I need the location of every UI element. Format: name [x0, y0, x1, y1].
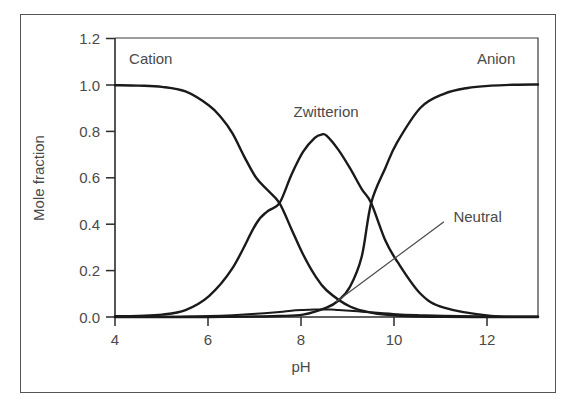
y-tick-label: 0.4	[79, 216, 100, 233]
y-tick-label: 1.0	[79, 77, 100, 94]
curve-label-anion: Anion	[477, 50, 515, 67]
x-axis-title: pH	[291, 358, 310, 375]
y-tick-label: 1.2	[79, 30, 100, 47]
curve-label-neutral: Neutral	[453, 208, 501, 225]
plot-frame	[115, 38, 538, 317]
neutral-leader-line	[336, 222, 444, 302]
chart-canvas: 1.2 1.0 0.8 0.6 0.4 0.2 0.0 4 6 8 10 12 …	[0, 0, 570, 409]
x-tick-label: 10	[386, 331, 403, 348]
y-tick-label: 0.6	[79, 169, 100, 186]
x-tick-label: 6	[204, 331, 212, 348]
figure-container: 1.2 1.0 0.8 0.6 0.4 0.2 0.0 4 6 8 10 12 …	[0, 0, 570, 409]
x-axis-ticks	[115, 317, 487, 326]
y-tick-label: 0.8	[79, 123, 100, 140]
y-tick-label: 0.2	[79, 262, 100, 279]
x-tick-label: 12	[479, 331, 496, 348]
x-tick-labels: 4 6 8 10 12	[111, 331, 496, 348]
curve-label-zwitterion: Zwitterion	[294, 103, 359, 120]
curve-annotations: Cation Zwitterion Anion Neutral	[129, 50, 515, 225]
y-tick-label: 0.0	[79, 309, 100, 326]
y-axis-title: Mole fraction	[30, 135, 47, 221]
curve-label-cation: Cation	[129, 50, 172, 67]
x-tick-label: 8	[297, 331, 305, 348]
y-axis-ticks	[106, 39, 115, 318]
x-tick-label: 4	[111, 331, 119, 348]
y-tick-labels: 1.2 1.0 0.8 0.6 0.4 0.2 0.0	[79, 30, 100, 326]
